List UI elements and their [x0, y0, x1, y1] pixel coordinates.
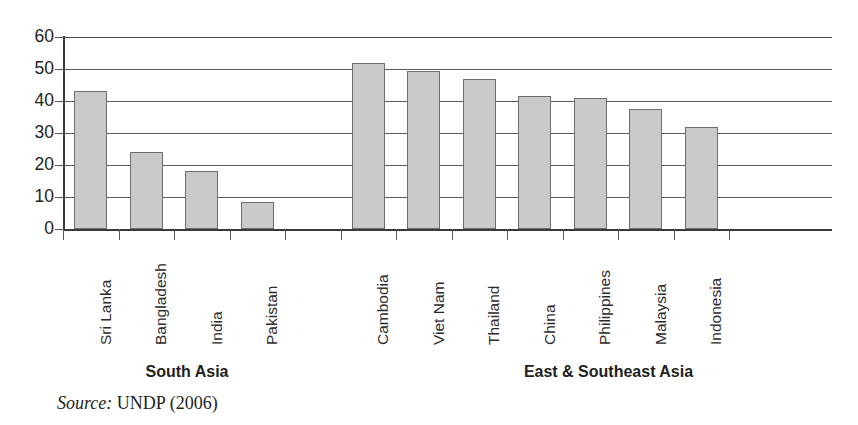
bar: [241, 202, 274, 229]
y-tick-label-30: 30: [20, 124, 54, 142]
bar: [463, 79, 496, 229]
y-tick-label-60: 60: [20, 28, 54, 46]
x-tick-mark: [452, 229, 453, 240]
x-tick-mark: [507, 229, 508, 240]
bar: [352, 63, 385, 229]
y-tick-label-50: 50: [20, 60, 54, 78]
category-label: Philippines: [597, 270, 613, 345]
y-axis-tick-labels: 60 50 40 30 20 10 0: [14, 0, 54, 425]
y-tick-label-0: 0: [20, 220, 54, 238]
chart-figure: 60 50 40 30 20 10 0 Sri LankaBangladeshI…: [0, 0, 858, 425]
x-tick-mark: [674, 229, 675, 240]
x-tick-mark: [341, 229, 342, 240]
gridline-60: [63, 37, 832, 38]
gridline-baseline-0: [63, 229, 832, 231]
y-tick-label-10: 10: [20, 188, 54, 206]
bar: [685, 127, 718, 229]
plot-area: [63, 37, 832, 229]
x-tick-mark: [618, 229, 619, 240]
bar: [74, 91, 107, 229]
category-label: Indonesia: [708, 278, 724, 345]
x-tick-mark: [174, 229, 175, 240]
bar: [629, 109, 662, 229]
gridline-40: [63, 101, 832, 102]
group-label-east-southeast-asia: East & Southeast Asia: [385, 363, 832, 381]
x-tick-mark: [63, 229, 64, 240]
bar: [130, 152, 163, 229]
gridline-50: [63, 69, 832, 70]
category-label: Thailand: [486, 286, 502, 345]
bar: [185, 171, 218, 229]
source-value: UNDP (2006): [117, 393, 218, 413]
source-note: Source: UNDP (2006): [57, 393, 218, 414]
x-tick-mark: [396, 229, 397, 240]
source-label: Source:: [57, 393, 112, 413]
category-label: Bangladesh: [153, 263, 169, 345]
x-tick-mark: [285, 229, 286, 240]
category-label: China: [542, 305, 558, 346]
category-label: India: [209, 311, 225, 345]
y-tick-label-40: 40: [20, 92, 54, 110]
category-label: Malaysia: [653, 284, 669, 345]
x-tick-mark: [119, 229, 120, 240]
y-tick-label-20: 20: [20, 156, 54, 174]
category-label: Pakistan: [264, 286, 280, 345]
x-tick-mark: [230, 229, 231, 240]
category-label: Cambodia: [375, 274, 391, 345]
group-label-south-asia: South Asia: [63, 363, 311, 381]
bar: [574, 98, 607, 229]
category-label: Sri Lanka: [98, 280, 114, 345]
bar: [407, 71, 440, 229]
x-tick-mark: [563, 229, 564, 240]
bar: [518, 96, 551, 229]
category-label: Viet Nam: [431, 282, 447, 345]
x-tick-mark: [729, 229, 730, 240]
